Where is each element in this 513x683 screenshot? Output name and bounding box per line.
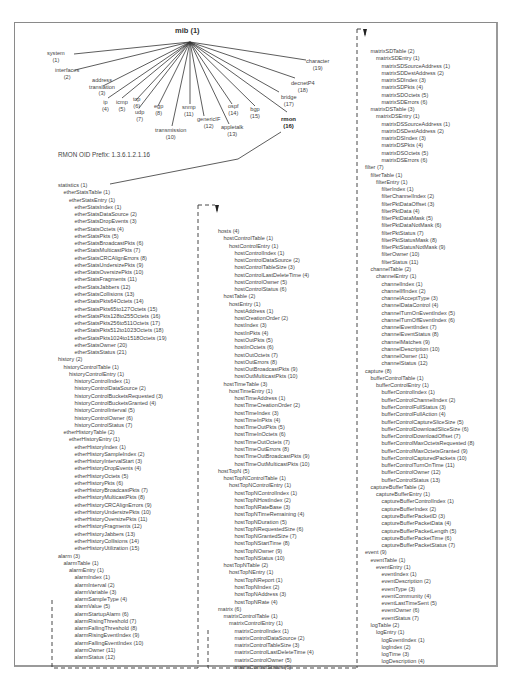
- mib-node: bufferControlCapturedPackets (10): [365, 455, 474, 462]
- mib-node: bufferControlCaptureSliceSize (5): [365, 419, 474, 426]
- mib-node: bufferControlEntry (1): [365, 382, 474, 389]
- mib-node: eventType (3): [365, 586, 474, 593]
- node-decnetp4: decnetP4(18): [291, 80, 315, 93]
- mib-node: historyControlOwner (6): [58, 415, 167, 422]
- node-bgp: bgp(15): [250, 106, 260, 119]
- mib-node: matrixSDErrors (6): [365, 99, 474, 106]
- mib-node: etherStatsOversizePkts (10): [58, 269, 167, 276]
- mib-node: hostTimeOutErrors (8): [218, 446, 314, 453]
- mib-node: logDescription (4): [365, 658, 474, 665]
- mib-node: filterPktStatusNotMask (9): [365, 244, 474, 251]
- mib-node: bufferControlOwner (12): [365, 469, 474, 476]
- mib-node: etherStatsPkts256to511Octets (17): [58, 320, 167, 327]
- mib-node: etherStatsIndex (1): [58, 204, 167, 211]
- mib-node: hostIndex (3): [218, 322, 314, 329]
- mib-node: hostOutPkts (5): [218, 337, 314, 344]
- mib-node: etherHistoryCRCAlignErrors (9): [58, 502, 167, 509]
- mib-node: matrixControlIndex (1): [218, 628, 314, 635]
- mib-node: eventDescription (2): [365, 578, 474, 585]
- mib-node: alarmTable (1): [58, 560, 167, 567]
- mib-node: alarmSampleType (4): [58, 596, 167, 603]
- mib-node: hostTopNTimeRemaining (4): [218, 511, 314, 518]
- mib-node: etherHistoryOctets (5): [58, 473, 167, 480]
- mib-node: etherStatsOwner (20): [58, 342, 167, 349]
- mib-node: etherStatsPkts1024to1518Octets (19): [58, 335, 167, 342]
- node-interfaces: interfaces(2): [55, 67, 79, 80]
- mib-node: hostTopNIndex (2): [218, 584, 314, 591]
- mib-node: hostControlStatus (6): [218, 286, 314, 293]
- mib-node: etherStatsCRCAlignErrors (8): [58, 255, 167, 262]
- mib-node: etherHistoryMulticastPkts (8): [58, 494, 167, 501]
- mib-node: bufferControlStatus (13): [365, 477, 474, 484]
- mib-node: etherStatsDataSource (2): [58, 211, 167, 218]
- mib-node: alarmIndex (1): [58, 574, 167, 581]
- mib-node: channelEventIndex (7): [365, 324, 474, 331]
- mib-node: bufferControlFullAction (4): [365, 411, 474, 418]
- mib-node: bufferControlMaxOctetsRequested (8): [365, 440, 474, 447]
- mib-node: hostTopNStatus (10): [218, 555, 314, 562]
- mib-node: bufferControlTable (1): [365, 375, 474, 382]
- mib-node: channelOwner (11): [365, 353, 474, 360]
- rmon-oid-prefix: RMON OID Prefix: 1.3.6.1.2.1.16: [58, 151, 150, 158]
- mib-node: hostInOctets (6): [218, 344, 314, 351]
- mib-node: eventLastTimeSent (5): [365, 600, 474, 607]
- mib-node: etherStatsJabbers (12): [58, 284, 167, 291]
- mib-node: etherStatsCollisions (13): [58, 291, 167, 298]
- mib-node: hostOutOctets (7): [218, 352, 314, 359]
- mib-node: matrixDSDestAddress (2): [365, 128, 474, 135]
- mib-node: captureBufferPacketLength (5): [365, 528, 474, 535]
- mib-node: etherStatsUndersizePkts (9): [58, 262, 167, 269]
- mib-node: matrixSDSourceAddress (1): [365, 63, 474, 70]
- mib-node: etherStatsEntry (1): [58, 197, 167, 204]
- mib-node: hostTimeOutMulticastPkts (10): [218, 461, 314, 468]
- mib-node: matrixSDTable (2): [365, 48, 474, 55]
- mib-node: hostTimeOutPkts (5): [218, 424, 314, 431]
- mib-root-label: mib (1): [175, 26, 200, 35]
- node-appletalk: appletalk(13): [221, 124, 243, 137]
- mib-node: etherHistoryJabbers (13): [58, 531, 167, 538]
- mib-node: bufferControlMaxOctetsGranted (9): [365, 448, 474, 455]
- mib-node: matrixSDIndex (3): [365, 77, 474, 84]
- mib-node: hostTimeEntry (1): [218, 388, 314, 395]
- mib-node: event (9): [365, 549, 474, 556]
- mib-node: hostTimeOutBroadcastPkts (9): [218, 453, 314, 460]
- mib-node: hostTopNStartTime (8): [218, 540, 314, 547]
- mib-node: captureBufferIndex (2): [365, 506, 474, 513]
- mib-node: hostInPkts (4): [218, 330, 314, 337]
- mib-node: hostEntry (1): [218, 301, 314, 308]
- node-egp: egp(8): [154, 103, 163, 116]
- node-rmon: rmon(16): [281, 116, 296, 129]
- mib-node: historyControlTable (1): [58, 364, 167, 371]
- mib-node: logIndex (2): [365, 644, 474, 651]
- mib-node: bufferControlTurnOnTime (11): [365, 462, 474, 469]
- node-address-translation: addresstranslation(3): [88, 77, 116, 97]
- mib-node: matrixControlStatus (6): [218, 664, 314, 671]
- mib-node: etherHistoryIntervalStart (3): [58, 458, 167, 465]
- mib-node: bufferControlFullStatus (3): [365, 404, 474, 411]
- mib-node: etherHistoryFragments (12): [58, 523, 167, 530]
- mib-node: filterPktDataMask (5): [365, 215, 474, 222]
- node-ospf: ospf(14): [228, 103, 239, 116]
- mib-node: channelMatches (9): [365, 339, 474, 346]
- mib-node: etherHistoryTable (2): [58, 429, 167, 436]
- mib-node: channelTable (2): [365, 266, 474, 273]
- mib-node: eventOwner (6): [365, 607, 474, 614]
- node-ip: ip(4): [102, 99, 109, 112]
- mib-node: filterChannelIndex (2): [365, 193, 474, 200]
- mib-node: hostTimeIndex (3): [218, 410, 314, 417]
- mib-node: filterEntry (1): [365, 179, 474, 186]
- mib-node: filterStatus (11): [365, 259, 474, 266]
- mib-node: logEventIndex (1): [365, 637, 474, 644]
- mib-node: channelEntry (1): [365, 273, 474, 280]
- mib-node: etherStatsTable (1): [58, 189, 167, 196]
- mib-node: eventStatus (7): [365, 615, 474, 622]
- mib-node: hostTopNRateBase (3): [218, 504, 314, 511]
- mib-node: eventEntry (1): [365, 564, 474, 571]
- mib-node: matrixSDOctets (5): [365, 92, 474, 99]
- mib-node: captureBufferControlIndex (1): [365, 498, 474, 505]
- mib-node: channelEventStatus (8): [365, 331, 474, 338]
- mib-node: hostControlTableSize (3): [218, 264, 314, 271]
- mib-node: captureBufferPacketData (4): [365, 520, 474, 527]
- mib-node: matrixDSIndex (3): [365, 135, 474, 142]
- mib-node: etherHistoryIndex (1): [58, 444, 167, 451]
